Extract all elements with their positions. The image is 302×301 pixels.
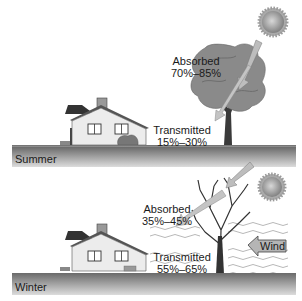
shrub-icon — [118, 135, 139, 145]
winter-season-label: Winter — [15, 281, 47, 293]
winter-panel: Absorbed 35%–45% Transmitted 55%–65% Win… — [0, 150, 302, 301]
wind-label: Wind — [260, 240, 285, 252]
summer-absorbed-label: Absorbed 70%–85% — [166, 55, 226, 79]
ground — [12, 273, 296, 295]
sun-icon — [259, 174, 285, 200]
winter-absorbed-label: Absorbed 35%–45% — [137, 203, 197, 227]
sun-icon — [259, 8, 287, 36]
summer-transmitted-label: Transmitted 15%–30% — [150, 124, 214, 148]
absorbed-arrow-icon — [226, 162, 254, 188]
house-icon — [60, 224, 149, 271]
summer-panel: Absorbed 70%–85% Transmitted 15%–30% — [0, 0, 302, 150]
winter-transmitted-label: Transmitted 55%–65% — [150, 251, 214, 275]
